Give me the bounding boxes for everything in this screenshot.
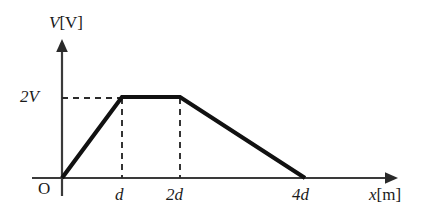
y-axis-arrowhead [56,39,68,52]
y-tick-label-2v: 2V [20,88,39,105]
potential-curve [62,97,305,178]
x-axis-title-unit: [m] [377,185,402,204]
x-axis-arrowhead [385,172,398,184]
potential-vs-position-figure: V[V] x[m] 2V O d 2d 4d [0,0,440,222]
x-axis-title: x[m] [369,186,401,203]
x-axis-title-symbol: x [369,185,377,204]
y-axis-title-symbol: V [49,13,59,32]
y-axis-title-unit: [V] [59,13,83,32]
x-tick-label-d: d [115,186,124,203]
x-axis [32,172,398,184]
origin-label: O [38,180,50,197]
y-axis-title: V[V] [49,14,83,31]
x-tick-label-4d: 4d [292,186,309,203]
x-tick-label-2d: 2d [166,186,183,203]
